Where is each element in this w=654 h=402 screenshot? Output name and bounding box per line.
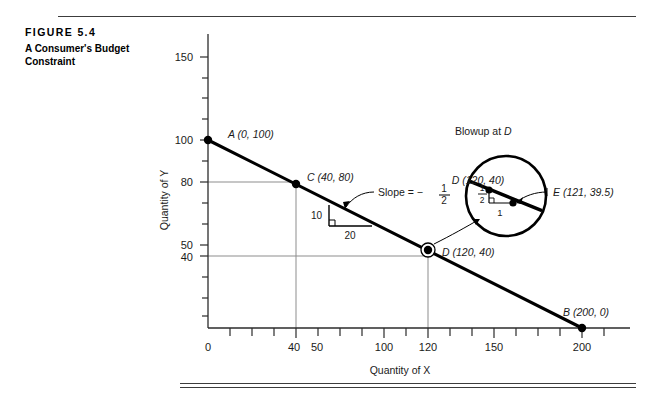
x-tick-label-40: 40: [288, 341, 300, 353]
blowup-title-text: Blowup at: [455, 125, 504, 137]
y-axis-ticks: [200, 57, 208, 316]
blowup-point-e-label: E (121, 39.5): [553, 186, 614, 198]
blowup-title: Blowup at D: [455, 125, 512, 137]
y-tick-label-50: 50: [181, 239, 193, 251]
data-point-c-label: C (40, 80): [307, 171, 354, 183]
blowup-run-label: 1: [497, 207, 502, 218]
x-tick-label-100: 100: [375, 341, 393, 353]
x-tick-label-150: 150: [485, 341, 503, 353]
x-tick-label-120: 120: [419, 341, 437, 353]
blowup-point-d-label: D (120, 40): [452, 174, 505, 186]
y-axis-title: Quantity of Y: [158, 170, 170, 231]
slope-prefix-text: Slope = −: [378, 186, 423, 198]
x-axis-ticks: [230, 328, 604, 338]
data-point-a-label: A (0, 100): [227, 128, 274, 140]
x-tick-label-0: 0: [205, 341, 211, 353]
data-point-b: [578, 324, 586, 332]
x-tick-label-200: 200: [573, 341, 591, 353]
figure-page: FIGURE 5.4 A Consumer's Budget Constrain…: [0, 0, 654, 402]
data-point-a: [204, 136, 212, 144]
right-angle-mark: [329, 220, 335, 226]
y-tick-label-150: 150: [175, 51, 193, 63]
x-tick-label-50: 50: [311, 341, 323, 353]
x-axis-title: Quantity of X: [370, 364, 431, 376]
slope-leader-line: [346, 192, 374, 207]
guide-lines: [208, 182, 428, 328]
slope-fraction-denominator: 2: [441, 195, 447, 206]
slope-annotation-label: Slope = −: [378, 186, 423, 198]
axes: [208, 34, 630, 328]
blowup-point-e: [509, 199, 516, 206]
data-point-d: [424, 246, 432, 254]
slope-run-label: 20: [344, 230, 356, 241]
slope-rise-label: 10: [311, 210, 323, 221]
budget-constraint-chart: 150 100 80 50 40 0 40 50 100 120 150 200…: [0, 0, 654, 402]
slope-fraction: 1 2: [439, 183, 450, 206]
data-point-c: [292, 180, 300, 188]
blowup-rise-denominator: 2: [480, 195, 485, 205]
data-point-d-label: D (120, 40): [442, 246, 495, 258]
y-tick-label-100: 100: [175, 134, 193, 146]
slope-fraction-numerator: 1: [441, 183, 447, 194]
blowup-leader-line: [434, 220, 478, 244]
data-point-b-label: B (200, 0): [563, 306, 609, 318]
y-tick-label-40: 40: [181, 251, 193, 263]
y-tick-label-80: 80: [181, 176, 193, 188]
blowup-title-point: D: [504, 125, 512, 137]
blowup-point-d: [485, 186, 492, 193]
